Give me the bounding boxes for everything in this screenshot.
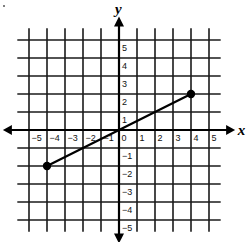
y-tick-label: 3 — [122, 79, 127, 89]
x-axis-arrow-right-icon — [226, 125, 235, 135]
y-tick-label: 4 — [122, 61, 127, 71]
endpoint-dot — [43, 162, 51, 170]
y-tick-label: −3 — [122, 187, 132, 197]
y-tick-label: 5 — [122, 43, 127, 53]
x-tick-label: −5 — [32, 133, 42, 143]
y-tick-label: −2 — [122, 169, 132, 179]
x-tick-label: 4 — [194, 133, 199, 143]
x-tick-label: 3 — [176, 133, 181, 143]
y-tick-label: −5 — [122, 223, 132, 233]
x-axis-arrow-left-icon — [3, 125, 12, 135]
x-tick-label: −3 — [68, 133, 78, 143]
x-tick-label: 5 — [212, 133, 217, 143]
x-tick-label: 0 — [122, 133, 127, 143]
y-axis-arrow-up-icon — [114, 17, 124, 27]
coordinate-plane: −5−4−3−2−1012345−5−4−3−2−112345xy — [0, 0, 246, 242]
y-axis-label: y — [113, 1, 122, 17]
y-tick-label: 1 — [122, 115, 127, 125]
y-tick-label: −1 — [122, 151, 132, 161]
x-tick-label: 2 — [158, 133, 163, 143]
y-tick-label: 2 — [122, 97, 127, 107]
y-tick-label: −4 — [122, 205, 132, 215]
endpoint-dot — [187, 90, 195, 98]
x-tick-label: −4 — [50, 133, 60, 143]
x-axis-label: x — [237, 122, 246, 138]
y-axis-arrow-down-icon — [114, 234, 124, 242]
x-tick-label: 1 — [140, 133, 145, 143]
